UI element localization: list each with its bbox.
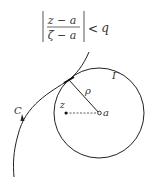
diagram: z − a ζ − a < q Γ C ρ z a (0, 0, 154, 187)
formula-numerator: z − a (47, 14, 77, 27)
point-z (65, 112, 68, 115)
label-c: C (14, 105, 22, 116)
formula: z − a ζ − a < q (43, 11, 109, 42)
radius-rho (69, 80, 99, 113)
formula-denominator: ζ − a (48, 29, 77, 42)
label-z: z (59, 100, 65, 110)
formula-rhs: q (101, 21, 109, 35)
label-a: a (103, 107, 109, 118)
curve-c (13, 52, 89, 177)
label-gamma: Γ (111, 70, 120, 81)
label-rho: ρ (84, 85, 91, 96)
point-a (98, 111, 102, 115)
formula-relation: < (88, 22, 98, 36)
